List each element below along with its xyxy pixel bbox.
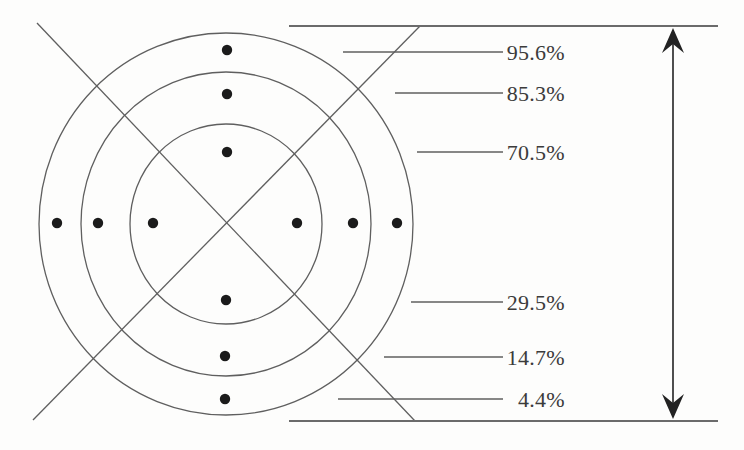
data-dot [52,218,62,228]
data-dot [222,89,232,99]
percentage-label: 14.7% [507,345,565,370]
data-dot [221,295,231,305]
range-double-arrow [662,28,684,419]
percentile-rings-diagram: 95.6%85.3%70.5%29.5%14.7%4.4% [0,0,744,450]
data-dot [222,45,232,55]
data-dot [392,218,402,228]
percentage-label: 95.6% [507,40,565,65]
data-dot [222,147,232,157]
label-leader-lines [338,52,503,399]
diagonal-cross-lines [33,23,420,421]
data-dot [220,394,230,404]
data-dots [52,45,402,404]
data-dot [148,218,158,228]
percentage-label: 70.5% [507,140,565,165]
data-dot [220,351,230,361]
percentage-label: 29.5% [507,290,565,315]
data-dot [292,218,302,228]
percentage-label: 4.4% [518,387,565,412]
data-dot [348,218,358,228]
data-dot [93,218,103,228]
percentage-label: 85.3% [507,81,565,106]
scanned-figure-page: 95.6%85.3%70.5%29.5%14.7%4.4% [0,0,744,450]
percentage-labels: 95.6%85.3%70.5%29.5%14.7%4.4% [507,40,565,412]
